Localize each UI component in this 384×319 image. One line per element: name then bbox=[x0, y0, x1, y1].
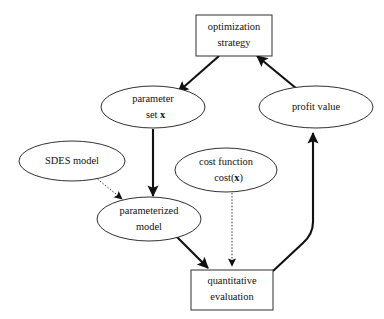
node-cost-function[interactable]: cost function cost(x) bbox=[175, 148, 277, 192]
optimization-strategy-label-line2: strategy bbox=[218, 37, 252, 48]
flow-diagram: optimization strategy parameter set x pr… bbox=[0, 0, 384, 319]
parameterized-model-label-line1: parameterized bbox=[120, 205, 180, 216]
node-parameter-set[interactable]: parameter set x bbox=[101, 86, 205, 128]
parameter-set-label-line2: set x bbox=[123, 109, 184, 120]
edge-profit-to-optimization bbox=[257, 56, 297, 89]
optimization-strategy-label-line1: optimization bbox=[208, 21, 261, 32]
cost-function-label-suffix: ) bbox=[240, 172, 243, 184]
diagram-canvas: optimization strategy parameter set x pr… bbox=[0, 0, 384, 319]
parameter-set-label-variable: x bbox=[160, 109, 166, 120]
edge-parameterized-model-to-quantitative bbox=[175, 235, 208, 268]
sdes-model-label: SDES model bbox=[45, 155, 99, 166]
node-profit-value[interactable]: profit value bbox=[259, 86, 373, 128]
parameterized-model-label-line2: model bbox=[136, 221, 162, 232]
quantitative-evaluation-label-line1: quantitative bbox=[207, 275, 256, 286]
cost-function-label-line1: cost function bbox=[199, 156, 254, 167]
node-quantitative-evaluation[interactable]: quantitative evaluation bbox=[191, 270, 273, 310]
profit-value-label: profit value bbox=[292, 101, 341, 112]
cost-function-ellipse bbox=[175, 148, 277, 192]
node-sdes-model[interactable]: SDES model bbox=[19, 141, 125, 181]
edge-optimization-to-parameter bbox=[178, 56, 219, 92]
parameter-set-ellipse bbox=[101, 86, 205, 128]
quantitative-evaluation-label-line2: evaluation bbox=[210, 291, 254, 302]
parameterized-model-ellipse bbox=[97, 197, 201, 241]
cost-function-label-line2: cost(x) bbox=[191, 172, 261, 184]
node-parameterized-model[interactable]: parameterized model bbox=[97, 197, 201, 241]
edge-quantitative-to-profit bbox=[273, 133, 313, 271]
parameter-set-label-line1: parameter bbox=[132, 93, 174, 104]
cost-function-label-prefix: cost( bbox=[214, 172, 235, 184]
node-optimization-strategy[interactable]: optimization strategy bbox=[196, 15, 272, 56]
edge-sdes-to-parameterized-model bbox=[95, 177, 122, 199]
parameter-set-label-prefix: set bbox=[146, 109, 160, 120]
